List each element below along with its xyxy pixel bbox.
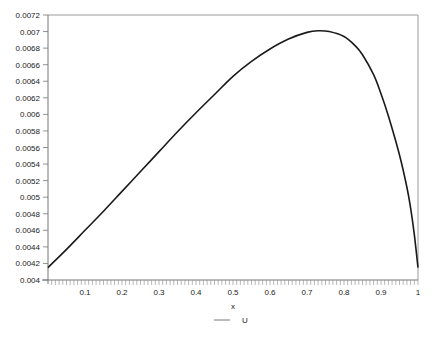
y-tick-label: 0.0054 <box>16 160 41 169</box>
x-tick-label: 0.6 <box>264 288 276 297</box>
y-tick-label: 0.004 <box>20 276 41 285</box>
x-tick-label: 0.4 <box>190 288 202 297</box>
legend-label-u: U <box>242 316 248 325</box>
x-tick-label: 0.5 <box>227 288 239 297</box>
x-axis: 0.10.20.30.40.50.60.70.80.91 <box>42 280 421 297</box>
y-tick-label: 0.0058 <box>16 127 41 136</box>
y-tick-label: 0.0068 <box>16 44 41 53</box>
y-tick-label: 0.0072 <box>16 11 41 20</box>
y-axis: 0.0040.00420.00440.00460.00480.0050.0052… <box>16 11 48 285</box>
y-tick-label: 0.005 <box>20 193 41 202</box>
series-layer <box>48 31 418 268</box>
series-line-u <box>48 31 418 268</box>
x-tick-label: 0.1 <box>79 288 91 297</box>
y-tick-label: 0.0062 <box>16 94 41 103</box>
x-tick-label: 0.7 <box>301 288 313 297</box>
y-tick-label: 0.0046 <box>16 226 41 235</box>
x-tick-label: 0.3 <box>153 288 165 297</box>
y-tick-label: 0.0044 <box>16 243 41 252</box>
x-tick-label: 0.2 <box>116 288 128 297</box>
y-tick-label: 0.0064 <box>16 77 41 86</box>
x-axis-label: x <box>231 302 235 311</box>
line-chart: 0.0040.00420.00440.00460.00480.0050.0052… <box>0 0 432 338</box>
legend: U <box>214 316 248 325</box>
x-tick-label: 0.9 <box>375 288 387 297</box>
x-tick-label: 0.8 <box>338 288 350 297</box>
y-tick-label: 0.006 <box>20 110 41 119</box>
x-tick-label: 1 <box>416 288 421 297</box>
y-tick-label: 0.0048 <box>16 210 41 219</box>
y-tick-label: 0.0056 <box>16 144 41 153</box>
y-tick-label: 0.0066 <box>16 61 41 70</box>
y-tick-label: 0.007 <box>20 28 41 37</box>
y-tick-label: 0.0052 <box>16 177 41 186</box>
y-tick-label: 0.0042 <box>16 259 41 268</box>
